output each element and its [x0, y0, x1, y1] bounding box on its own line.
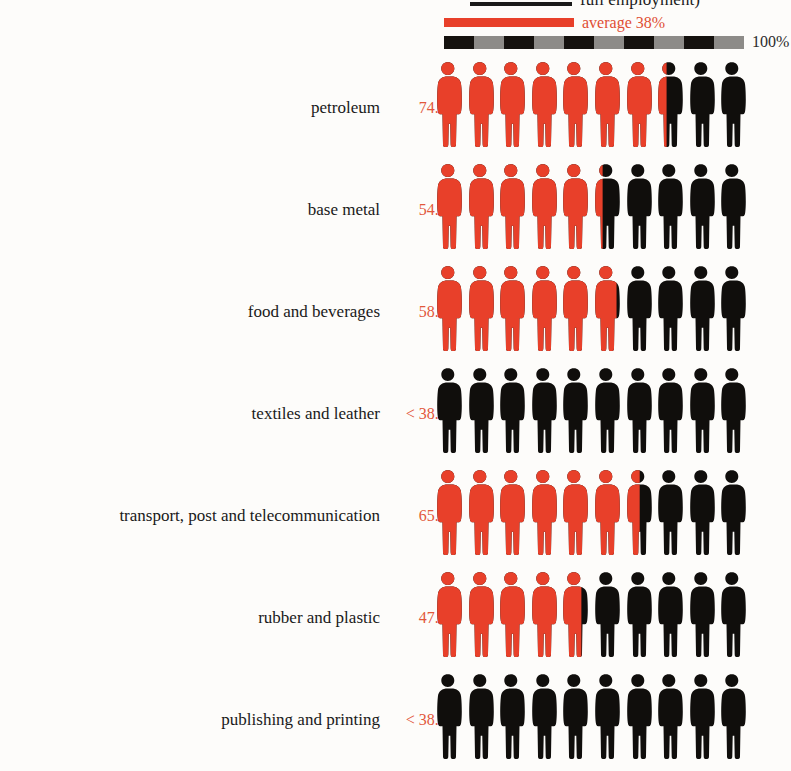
average-legend: average 38% [444, 14, 665, 31]
row-pictogram-group [432, 365, 748, 463]
person-icon [716, 59, 748, 157]
person-icon [527, 59, 559, 157]
person-icon-fill [432, 59, 464, 157]
scale-segment [594, 36, 624, 49]
person-icon [590, 161, 622, 259]
person-icon-fill [527, 569, 559, 667]
person-icon-base [558, 365, 590, 463]
row-category-label: rubber and plastic [0, 608, 380, 628]
person-icon [622, 365, 654, 463]
person-icon [716, 467, 748, 565]
person-icon [622, 59, 654, 157]
scale-segment [714, 36, 744, 49]
person-icon-base [558, 671, 590, 769]
person-icon [558, 467, 590, 565]
person-icon [590, 671, 622, 769]
person-icon [495, 365, 527, 463]
person-icon-base [653, 161, 685, 259]
person-icon-base [716, 365, 748, 463]
person-icon [432, 263, 464, 361]
person-icon-fill [527, 467, 559, 565]
chart-row: publishing and printing< 38.0% [0, 669, 791, 771]
person-icon-fill [653, 59, 685, 157]
scale-bar [444, 36, 744, 49]
person-icon [527, 467, 559, 565]
person-icon [464, 671, 496, 769]
person-icon-fill [527, 59, 559, 157]
person-icon [558, 365, 590, 463]
person-icon [558, 263, 590, 361]
legend-top-rule [470, 2, 572, 6]
person-icon-fill [464, 161, 496, 259]
person-icon [716, 263, 748, 361]
person-icon-base [622, 161, 654, 259]
person-icon [432, 59, 464, 157]
person-icon-base [653, 671, 685, 769]
person-icon [527, 569, 559, 667]
person-icon-base [653, 467, 685, 565]
person-icon-fill [558, 161, 590, 259]
person-icon-base [653, 263, 685, 361]
person-icon-base [495, 365, 527, 463]
person-icon [685, 467, 717, 565]
row-category-label: publishing and printing [0, 710, 380, 730]
person-icon-base [685, 569, 717, 667]
average-legend-label: average 38% [582, 14, 665, 32]
person-icon-base [464, 671, 496, 769]
chart-row: textiles and leather< 38.0% [0, 363, 791, 465]
person-icon-base [622, 671, 654, 769]
person-icon [590, 569, 622, 667]
chart-row: petroleum74.3% [0, 57, 791, 159]
person-icon [527, 161, 559, 259]
person-icon-fill [590, 59, 622, 157]
person-icon [716, 569, 748, 667]
person-icon-base [495, 671, 527, 769]
person-icon-base [464, 365, 496, 463]
person-icon-base [685, 161, 717, 259]
person-icon [685, 671, 717, 769]
person-icon-fill [590, 467, 622, 565]
person-icon-base [590, 671, 622, 769]
person-icon-base [653, 569, 685, 667]
person-icon-fill [495, 59, 527, 157]
row-pictogram-group [432, 569, 748, 667]
person-icon [622, 467, 654, 565]
person-icon [716, 365, 748, 463]
person-icon [527, 671, 559, 769]
person-icon [432, 467, 464, 565]
person-icon-base [716, 59, 748, 157]
row-pictogram-group [432, 59, 748, 157]
scale-segment [654, 36, 684, 49]
person-icon-fill [622, 467, 654, 565]
person-icon [653, 59, 685, 157]
person-icon-base [685, 59, 717, 157]
person-icon-base [716, 671, 748, 769]
row-category-label: transport, post and telecommunication [0, 506, 380, 526]
person-icon-fill [464, 467, 496, 565]
person-icon-base [527, 365, 559, 463]
person-icon-base [527, 671, 559, 769]
pictogram-chart: full employment) average 38% 100% petrol… [0, 0, 791, 771]
average-swatch [444, 18, 574, 27]
person-icon [464, 161, 496, 259]
person-icon-base [716, 467, 748, 565]
person-icon-base [685, 365, 717, 463]
scale-segment [474, 36, 504, 49]
person-icon [622, 161, 654, 259]
person-icon-fill [622, 59, 654, 157]
person-icon [685, 263, 717, 361]
person-icon [558, 161, 590, 259]
person-icon-base [432, 671, 464, 769]
person-icon-base [622, 569, 654, 667]
row-category-label: food and beverages [0, 302, 380, 322]
person-icon [464, 467, 496, 565]
person-icon [590, 59, 622, 157]
person-icon [464, 365, 496, 463]
person-icon-base [716, 263, 748, 361]
person-icon [590, 365, 622, 463]
person-icon-fill [495, 161, 527, 259]
person-icon-fill [590, 161, 622, 259]
person-icon [622, 569, 654, 667]
scale-max-label: 100% [752, 33, 789, 51]
person-icon-fill [495, 569, 527, 667]
